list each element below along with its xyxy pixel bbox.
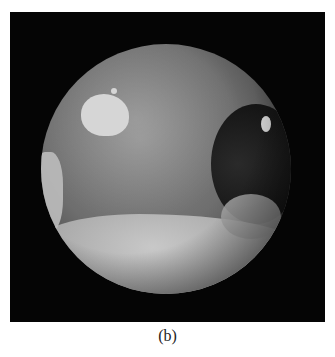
planet-sphere [41, 44, 291, 294]
figure-caption: (b) [0, 327, 335, 345]
limb-shading [41, 44, 291, 294]
figure-image [10, 12, 325, 322]
